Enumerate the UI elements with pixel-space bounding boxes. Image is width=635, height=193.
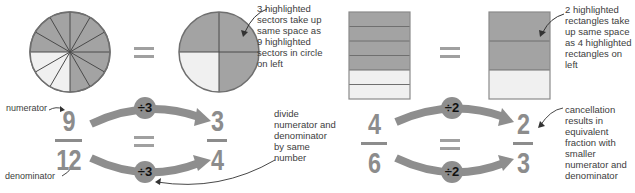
- divide-badge: ÷3: [130, 164, 160, 179]
- circle-twelfths: [30, 12, 110, 92]
- fraction-denominator: 3: [514, 146, 533, 180]
- fraction-bar: [55, 139, 82, 142]
- divide-badge: ÷2: [437, 100, 467, 115]
- rect-thirds: [489, 12, 550, 99]
- divide-badge: ÷2: [437, 164, 467, 179]
- fraction-denominator: 4: [208, 143, 227, 177]
- equals-sign-icon: [134, 47, 154, 58]
- note-line: rectangles on: [565, 48, 635, 59]
- note-line: sectors in circle: [257, 47, 337, 58]
- divide-badge: ÷3: [130, 100, 160, 115]
- note-line: 9 highlighted: [257, 36, 337, 47]
- note-line: sectors take up: [257, 14, 337, 25]
- note-line: as 4 highlighted: [565, 37, 635, 48]
- note-line: cancellation: [565, 104, 635, 115]
- annotation-cancellation: cancellation results in equivalent fract…: [565, 104, 635, 181]
- equals-sign-icon: [440, 47, 460, 58]
- note-line: left: [565, 59, 635, 70]
- note-line: fraction with: [565, 137, 635, 148]
- note-line: denominator: [274, 130, 354, 141]
- note-line: same space as: [257, 25, 337, 36]
- note-line: smaller: [565, 148, 635, 159]
- circle-quarters: [179, 12, 259, 92]
- note-line: numerator and: [274, 119, 354, 130]
- fraction-bar: [513, 142, 533, 145]
- note-line: equivalent: [565, 126, 635, 137]
- numerator-label: numerator: [6, 103, 47, 113]
- note-line: rectangles take: [565, 15, 635, 26]
- note-line: numerator and: [565, 159, 635, 170]
- annotation-divide: divide numerator and denominator by same…: [274, 108, 354, 163]
- note-line: results in: [565, 115, 635, 126]
- annotation-circles: 3 highlighted sectors take up same space…: [257, 3, 337, 69]
- note-line: divide: [274, 108, 354, 119]
- fraction-numerator: 9: [56, 104, 80, 138]
- fraction-denominator: 12: [55, 143, 82, 177]
- fraction-numerator: 2: [514, 107, 533, 141]
- note-line: on left: [257, 58, 337, 69]
- note-line: by same: [274, 141, 354, 152]
- denominator-label: denominator: [5, 171, 55, 181]
- note-line: 3 highlighted: [257, 3, 337, 14]
- annotation-rectangles: 2 highlighted rectangles take up same sp…: [565, 4, 635, 70]
- fraction-denominator: 6: [365, 146, 384, 180]
- note-line: 2 highlighted: [565, 4, 635, 15]
- note-line: number: [274, 152, 354, 163]
- note-line: up same space: [565, 26, 635, 37]
- rect-sixths: [349, 12, 410, 99]
- fraction-numerator: 4: [365, 107, 384, 141]
- fraction-numerator: 3: [208, 104, 227, 138]
- note-line: denominator: [565, 170, 635, 181]
- fraction-bar: [361, 142, 387, 145]
- fraction-bar: [207, 139, 227, 142]
